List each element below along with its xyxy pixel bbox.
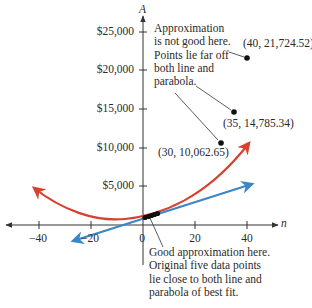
original-data-points — [142, 211, 160, 220]
note-line: parabola of best fit. — [149, 286, 270, 299]
point-label-30: (30, 10,062.65) — [158, 147, 229, 159]
x-axis — [6, 221, 278, 229]
note-line: parabola. — [154, 75, 231, 88]
point-35 — [231, 109, 237, 115]
y-tick-label: $5,000 — [54, 180, 134, 192]
note-not-good: Approximation is not good here. Points l… — [154, 22, 231, 88]
note-line: Original five data points — [149, 259, 270, 272]
note-line: Points lie far off — [154, 49, 231, 62]
y-tick-label: $10,000 — [54, 142, 134, 154]
point-label-35: (35, 14,785.34) — [223, 118, 294, 130]
x-tick-label: −20 — [75, 233, 105, 245]
note-good: Good approximation here. Original five d… — [149, 246, 270, 299]
note-line: lie close to both line and — [149, 273, 270, 286]
note-line: is not good here. — [154, 35, 231, 48]
y-tick-label: $25,000 — [54, 26, 134, 38]
x-axis-name: n — [281, 218, 287, 230]
y-tick-label: $15,000 — [54, 103, 134, 115]
x-tick-label: 0 — [127, 233, 157, 245]
x-tick-label: 40 — [232, 233, 262, 245]
y-axis-name: A — [139, 4, 146, 16]
note-line: Approximation — [154, 22, 231, 35]
note-line: Good approximation here. — [149, 246, 270, 259]
point-label-40: (40, 21,724.52) — [243, 38, 312, 50]
x-tick-label: 20 — [180, 233, 210, 245]
x-tick-label: −40 — [23, 233, 53, 245]
point-30 — [218, 140, 224, 146]
note-line: both line and — [154, 62, 231, 75]
y-tick-label: $20,000 — [54, 64, 134, 76]
point-40 — [244, 55, 250, 61]
y-axis — [139, 16, 147, 265]
